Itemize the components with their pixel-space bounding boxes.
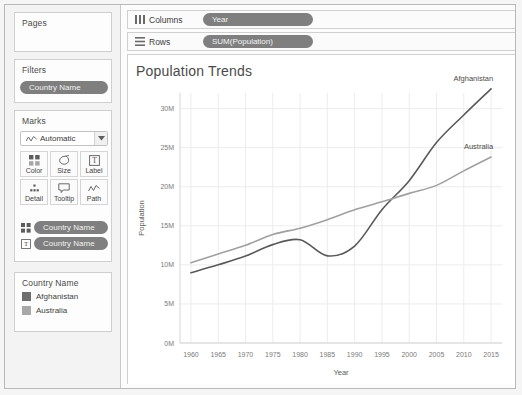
y-axis-title: Population [137,200,146,235]
y-tick-label: 5M [164,300,174,307]
marks-color-label: Color [26,167,43,174]
series-line-australia [191,157,491,263]
left-sidebar: Pages Filters Country Name Marks Automat… [5,5,121,388]
columns-shelf[interactable]: Columns Year [127,10,516,29]
color-legend-card: Country Name Afghanistan Australia [14,272,112,332]
marks-card: Marks Automatic [14,110,112,262]
marks-size-button[interactable]: Size [50,151,78,177]
series-annotation-afghanistan: Afghanistan [453,74,493,83]
x-tick-label: 2005 [429,351,445,358]
marks-color-pill-row: Country Name [20,221,108,234]
legend-item-label: Afghanistan [36,292,78,301]
legend-swatch [22,292,31,301]
tableau-worksheet-window: Pages Filters Country Name Marks Automat… [4,4,516,389]
x-axis-title: Year [333,368,349,377]
marks-pill-label-country-name[interactable]: Country Name [34,237,108,250]
x-tick-label: 1960 [183,351,199,358]
columns-shelf-label: Columns [149,15,201,25]
marks-path-button[interactable]: Path [80,179,108,205]
marks-detail-button[interactable]: Detail [20,179,48,205]
rows-pill-sum-population[interactable]: SUM(Population) [203,35,313,48]
color-squares-icon [29,155,40,166]
x-tick-label: 2015 [483,351,499,358]
chevron-down-icon[interactable] [94,132,107,145]
color-squares-icon [20,222,31,233]
y-tick-label: 15M [160,222,174,229]
x-tick-label: 1970 [238,351,254,358]
marks-label-button[interactable]: T Label [80,151,108,177]
pages-card[interactable]: Pages [14,12,112,52]
tooltip-bubble-icon [58,183,70,194]
y-tick-label: 30M [160,105,174,112]
y-tick-label: 25M [160,144,174,151]
label-text-icon: T [20,238,31,249]
svg-text:T: T [92,156,97,165]
rows-shelf-label: Rows [149,37,201,47]
marks-card-title: Marks [15,111,111,126]
columns-icon [133,15,146,24]
marks-color-button[interactable]: Color [20,151,48,177]
marks-tooltip-label: Tooltip [54,195,74,202]
rows-shelf[interactable]: Rows SUM(Population) [127,32,516,51]
legend-item-label: Australia [36,306,67,315]
chart-view: Population Trends 0M5M10M15M20M25M30M196… [127,54,516,384]
marks-label-pill-row: T Country Name [20,237,108,250]
marks-size-label: Size [57,167,71,174]
size-teardrop-icon [58,155,70,166]
marks-path-label: Path [87,195,101,202]
y-tick-label: 0M [164,340,174,347]
mark-type-dropdown[interactable]: Automatic [20,131,108,146]
worksheet-area: Columns Year Rows SUM(Population) Popula… [121,5,515,388]
columns-pill-year[interactable]: Year [203,13,313,26]
path-line-icon [88,183,100,194]
filters-card-title: Filters [15,60,111,75]
filter-pill-country-name[interactable]: Country Name [20,81,108,94]
line-chart-icon [26,135,37,143]
x-tick-label: 2010 [456,351,472,358]
label-text-icon: T [89,155,100,166]
pages-card-title: Pages [15,13,111,28]
x-tick-label: 2000 [401,351,417,358]
x-tick-label: 1965 [210,351,226,358]
mark-type-label: Automatic [40,134,76,143]
legend-item[interactable]: Australia [22,306,67,315]
x-tick-label: 1980 [292,351,308,358]
marks-detail-label: Detail [25,195,43,202]
legend-swatch [22,306,31,315]
marks-button-grid: Color Size T [20,151,108,205]
legend-item[interactable]: Afghanistan [22,292,78,301]
legend-title: Country Name [15,273,111,288]
x-tick-label: 1990 [347,351,363,358]
x-tick-label: 1975 [265,351,281,358]
x-tick-label: 1985 [320,351,336,358]
detail-dots-icon [29,183,40,194]
y-tick-label: 10M [160,261,174,268]
marks-tooltip-button[interactable]: Tooltip [50,179,78,205]
rows-icon [133,37,146,46]
filters-card[interactable]: Filters Country Name [14,59,112,103]
marks-label-label: Label [85,167,102,174]
svg-text:T: T [23,240,28,247]
y-tick-label: 20M [160,183,174,190]
x-tick-label: 1995 [374,351,390,358]
population-trends-line-chart: 0M5M10M15M20M25M30M196019651970197519801… [128,55,516,384]
marks-pill-color-country-name[interactable]: Country Name [34,221,108,234]
series-annotation-australia: Australia [464,142,494,151]
